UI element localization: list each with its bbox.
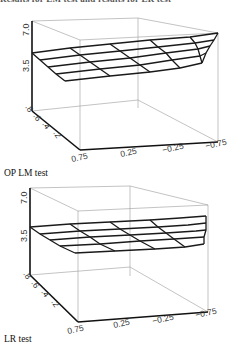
y-tick-1: .8 (21, 269, 33, 281)
x-tick-1: 0.75 (70, 151, 89, 164)
surface-plot-lr: 7.0 3.5 .8 .6 .4 .2 0.75 0.25 −0.25 −0.7… (0, 178, 245, 348)
caption-lr: LR test (4, 334, 32, 344)
y-tick-3: .4 (40, 119, 52, 131)
x-tick-4: −0.75 (204, 137, 227, 151)
caption-op-lm: OP LM test (4, 168, 48, 178)
surface-mesh (32, 33, 218, 81)
z-tick-3-5: 3.5 (21, 59, 31, 72)
z-tick-7: 7.0 (21, 23, 31, 36)
x-tick-2: 0.25 (119, 146, 138, 159)
surface-plot-op-lm: 7.0 3.5 .8 .6 .4 .2 0.75 0.25 −0.25 −0.7… (0, 0, 245, 170)
y-tick-2: .6 (31, 111, 43, 123)
surface-mesh (30, 216, 206, 253)
x-tick-2: 0.25 (112, 317, 131, 330)
z-tick-3-5: 3.5 (19, 229, 29, 242)
y-tick-3: .4 (39, 287, 51, 299)
x-tick-4: −0.75 (194, 306, 217, 320)
x-tick-3: −0.25 (161, 141, 184, 155)
y-tick-4: .2 (51, 128, 63, 140)
x-tick-1: 0.75 (66, 323, 85, 336)
y-tick-4: .2 (49, 297, 61, 309)
x-tick-3: −0.25 (151, 312, 174, 326)
z-tick-7: 7.0 (19, 191, 29, 204)
y-tick-2: .6 (29, 278, 41, 290)
